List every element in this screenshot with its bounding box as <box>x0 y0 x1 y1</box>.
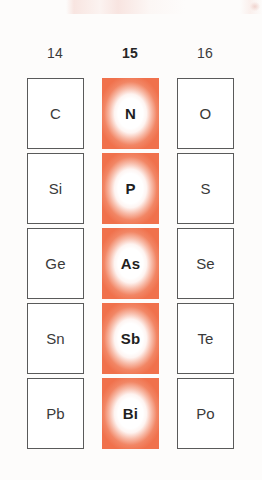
element-symbol: Te <box>197 330 213 347</box>
element-cell-lead[interactable]: Pb <box>27 378 84 449</box>
element-symbol: Sb <box>121 330 141 347</box>
element-cell-germanium[interactable]: Ge <box>27 228 84 299</box>
element-cell-tin[interactable]: Sn <box>27 303 84 374</box>
element-symbol: P <box>125 180 135 197</box>
element-cell-phosphorus[interactable]: P <box>102 153 159 224</box>
element-symbol: Ge <box>45 255 65 272</box>
element-symbol: Bi <box>123 405 138 422</box>
element-symbol: Po <box>196 405 215 422</box>
element-cell-arsenic[interactable]: As <box>102 228 159 299</box>
element-symbol: As <box>121 255 141 272</box>
element-symbol: O <box>200 105 212 122</box>
column-header-16: 16 <box>176 44 234 62</box>
column-header-14: 14 <box>26 44 84 62</box>
element-cell-silicon[interactable]: Si <box>27 153 84 224</box>
element-symbol: S <box>200 180 210 197</box>
column-header-15: 15 <box>101 44 159 62</box>
element-cell-sulfur[interactable]: S <box>177 153 234 224</box>
element-cell-antimony[interactable]: Sb <box>102 303 159 374</box>
element-symbol: C <box>50 105 61 122</box>
element-symbol: N <box>125 105 136 122</box>
element-cell-nitrogen[interactable]: N <box>102 78 159 149</box>
element-cell-carbon[interactable]: C <box>27 78 84 149</box>
element-cell-oxygen[interactable]: O <box>177 78 234 149</box>
element-cell-bismuth[interactable]: Bi <box>102 378 159 449</box>
element-symbol: Pb <box>46 405 65 422</box>
element-cell-selenium[interactable]: Se <box>177 228 234 299</box>
element-symbol: Sn <box>46 330 65 347</box>
element-cell-tellurium[interactable]: Te <box>177 303 234 374</box>
element-cell-polonium[interactable]: Po <box>177 378 234 449</box>
element-symbol: Si <box>49 180 63 197</box>
periodic-table-excerpt: 14 15 16 C N O Si P S Ge As Se Sn Sb Te … <box>0 0 262 480</box>
element-symbol: Se <box>196 255 215 272</box>
